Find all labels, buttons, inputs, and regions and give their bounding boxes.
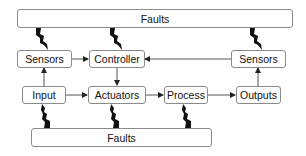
controller-label: Controller: [94, 53, 140, 65]
lightning-bolt-icon: [182, 104, 191, 128]
sensors-left-label: Sensors: [25, 53, 64, 65]
sensors-right-box: Sensors: [231, 50, 286, 68]
actuators-label: Actuators: [95, 89, 139, 101]
faults-top-box: Faults: [17, 9, 293, 28]
faults-bottom-label: Faults: [107, 132, 136, 144]
lightning-bolt-icon: [250, 28, 262, 50]
actuators-box: Actuators: [88, 86, 146, 104]
input-box: Input: [22, 86, 66, 104]
process-label: Process: [167, 89, 205, 101]
lightning-bolt-icon: [41, 104, 50, 128]
sensors-right-label: Sensors: [239, 53, 278, 65]
faults-bottom-box: Faults: [31, 128, 212, 147]
lightning-bolt-icon: [110, 28, 122, 50]
fault-diagram: Faults Sensors Controller Sensors Input …: [0, 0, 306, 156]
sensors-left-box: Sensors: [17, 50, 72, 68]
lightning-bolt-icon: [36, 28, 48, 50]
faults-top-label: Faults: [141, 13, 170, 25]
process-box: Process: [164, 86, 208, 104]
lightning-bolt-icon: [110, 104, 119, 128]
input-label: Input: [32, 89, 55, 101]
outputs-box: Outputs: [236, 86, 281, 104]
outputs-label: Outputs: [240, 89, 277, 101]
controller-box: Controller: [89, 50, 145, 68]
